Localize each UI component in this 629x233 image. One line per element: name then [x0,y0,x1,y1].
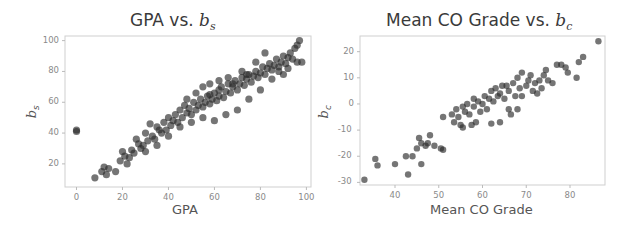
data-point [508,111,514,117]
data-point [403,153,409,159]
data-point [595,38,601,44]
data-point [514,75,520,81]
data-point [501,96,507,102]
data-point [477,109,483,115]
data-point [464,101,470,107]
data-point [414,145,420,151]
data-point [466,111,472,117]
data-point [455,114,461,120]
data-point [488,120,494,126]
data-point [538,85,544,91]
data-point [573,75,579,81]
data-point [449,111,455,117]
data-point [392,161,398,167]
data-point [471,103,477,109]
data-point [490,98,496,104]
data-point [479,101,485,107]
data-point [361,177,367,183]
data-point [519,69,525,75]
data-point [519,93,525,99]
data-point [409,153,415,159]
data-point [543,67,549,73]
data-point [512,93,518,99]
data-point [425,140,431,146]
data-point [517,85,523,91]
data-point [440,114,446,120]
data-point [460,124,466,130]
data-point [534,90,540,96]
data-point [565,69,571,75]
data-point [431,143,437,149]
data-point [527,72,533,78]
data-point [492,85,498,91]
data-point [549,80,555,86]
data-point [510,80,516,86]
data-point [497,119,503,125]
data-point [374,162,380,168]
data-point [514,106,520,112]
data-point [473,119,479,125]
data-point [453,106,459,112]
data-point [497,90,503,96]
plot-area [0,0,629,233]
data-point [405,171,411,177]
data-point [418,161,424,167]
chart-mean-co-grade-vs-bc: Mean CO Grade vs. bc bc Mean CO Grade 40… [0,0,629,233]
data-point [576,59,582,65]
data-point [451,119,457,125]
data-point [440,147,446,153]
data-point [536,77,542,83]
data-point [427,132,433,138]
data-point [506,88,512,94]
data-point [580,54,586,60]
data-point [484,106,490,112]
data-point [372,156,378,162]
